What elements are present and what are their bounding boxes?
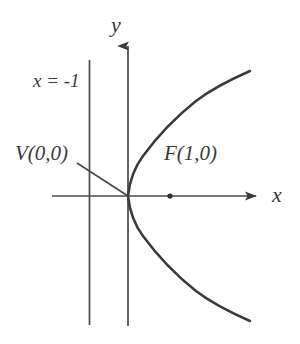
vertex-leader-line <box>77 163 128 196</box>
x-axis-label: x <box>272 184 282 206</box>
parabola-figure: y x x = -1 V(0,0) F(1,0) <box>0 0 300 344</box>
focus-label: F(1,0) <box>164 143 217 164</box>
y-axis-label: y <box>111 14 121 36</box>
figure-canvas <box>0 0 300 344</box>
parabola-upper-branch <box>128 71 250 196</box>
parabola-lower-branch <box>128 196 250 321</box>
vertex-label: V(0,0) <box>15 143 68 164</box>
focus-point <box>167 193 172 198</box>
directrix-label: x = -1 <box>33 71 80 90</box>
